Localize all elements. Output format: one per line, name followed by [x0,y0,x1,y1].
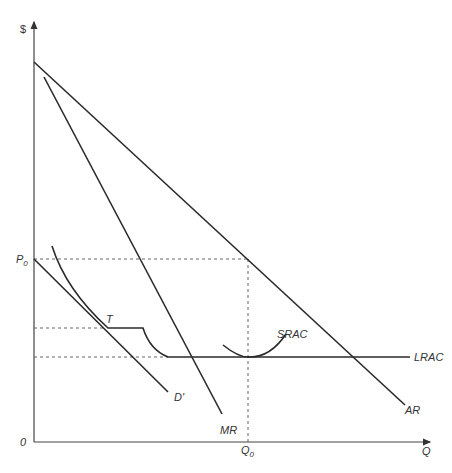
ar-curve [34,62,405,405]
d-prime-curve [34,259,168,392]
tangency-point-label: T [106,313,114,325]
economics-diagram: $ Q 0 P0 Q0 T AR MR D' SRAC LRAC [0,0,452,473]
mr-label: MR [220,424,237,436]
x-axis-label: Q [422,445,431,457]
origin-label: 0 [20,436,27,448]
lrac-label: LRAC [414,351,443,363]
p0-label: P0 [16,253,28,268]
ar-label: AR [404,404,420,416]
q0-label: Q0 [241,444,255,459]
lrac-curve [52,246,410,357]
d-prime-label: D' [174,391,185,403]
srac-label: SRAC [277,328,308,340]
mr-curve [44,77,222,414]
y-axis-label: $ [20,23,26,35]
